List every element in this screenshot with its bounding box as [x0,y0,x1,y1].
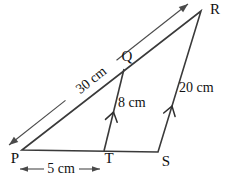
arrowhead-pt-right-icon [92,166,100,172]
label-vertex-r: R [210,1,220,17]
diagram-canvas: P Q R S T 30 cm 8 cm 20 cm 5 cm [0,0,225,182]
arrowhead-pr-start-icon [9,137,18,145]
arrowhead-pr-end-icon [179,4,188,12]
label-vertex-p: P [11,150,19,166]
label-vertex-t: T [104,150,113,166]
arrowhead-pt-left-icon [20,166,28,172]
dimension-label-qt: 8 cm [118,95,146,110]
label-vertex-q: Q [122,48,133,64]
label-vertex-s: S [162,153,170,169]
triangle-prs [22,11,201,152]
dimension-label-sr: 20 cm [179,80,214,95]
dimension-label-pt: 5 cm [47,161,75,176]
geometry-figure: P Q R S T 30 cm 8 cm 20 cm 5 cm [0,0,225,182]
segment-qt [104,69,124,151]
dimension-label-pr: 30 cm [73,63,110,96]
